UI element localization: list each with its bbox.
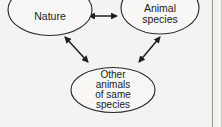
node-animal-species: Animal species bbox=[121, 0, 199, 34]
node-animal-species-label-line-2: species bbox=[142, 13, 178, 25]
node-other-animals-label-line-4: species bbox=[96, 99, 130, 110]
node-other-animals-of-same-species: Other animals of same species bbox=[71, 68, 155, 113]
node-nature: Nature bbox=[8, 0, 92, 36]
edge-nature-other-animals bbox=[65, 37, 88, 62]
page-edge-rule bbox=[213, 0, 222, 127]
diagram-figure: Nature Animal species Other animals of s… bbox=[0, 0, 222, 127]
node-nature-label-line-1: Nature bbox=[34, 10, 66, 22]
edge-animal-species-other-animals bbox=[139, 37, 160, 62]
diagram-canvas: Nature Animal species Other animals of s… bbox=[0, 0, 222, 127]
